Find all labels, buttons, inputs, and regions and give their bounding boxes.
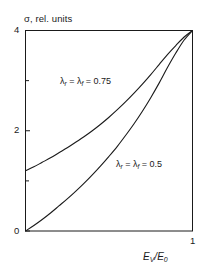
equals-2: =	[83, 76, 93, 86]
equals-1: =	[67, 76, 77, 86]
x-axis-title-e1: E	[143, 251, 150, 262]
plot-area	[0, 0, 209, 274]
series-value-upper: 0.75	[94, 76, 112, 86]
series-value-lower: 0.5	[150, 159, 163, 169]
x-axis-title-e2: E	[157, 251, 164, 262]
x-axis-title-sub2: 0	[164, 256, 168, 263]
series-label-lower: λr = λf = 0.5	[116, 160, 162, 171]
series-label-upper: λr = λf = 0.75	[60, 77, 111, 88]
equals-2: =	[139, 159, 149, 169]
equals-1: =	[123, 159, 133, 169]
x-axis-title: EV/E0	[143, 252, 168, 263]
plot-frame	[26, 31, 193, 232]
chart-figure: σ, rel. units 4 2 0 1 λr = λf = 0.75 λr …	[0, 0, 209, 274]
